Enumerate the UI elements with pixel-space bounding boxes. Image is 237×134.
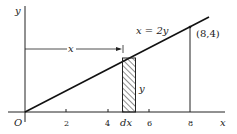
point-label: (8,4) [196, 28, 220, 39]
hatched-strip [123, 58, 136, 112]
line-x-equals-2y [25, 17, 209, 112]
x-tick-label-8: 8 [188, 119, 193, 128]
distance-label: x [68, 43, 74, 54]
x-axis-label: x [220, 117, 226, 128]
x-tick-label-4: 4 [105, 119, 110, 128]
arrowhead-icon [116, 47, 122, 51]
origin-label: O [14, 117, 22, 128]
strip-width-label: dx [120, 117, 132, 128]
area-element-diagram: x y O 2 4 dx 6 8 x y x = 2y (8,4) [0, 0, 237, 134]
equation-label: x = 2y [136, 25, 169, 36]
point-8-4 [189, 26, 192, 29]
x-tick-label-6: 6 [147, 119, 152, 128]
strip-height-label: y [138, 83, 145, 94]
x-tick-label-2: 2 [64, 119, 69, 128]
y-axis-label: y [14, 5, 21, 16]
